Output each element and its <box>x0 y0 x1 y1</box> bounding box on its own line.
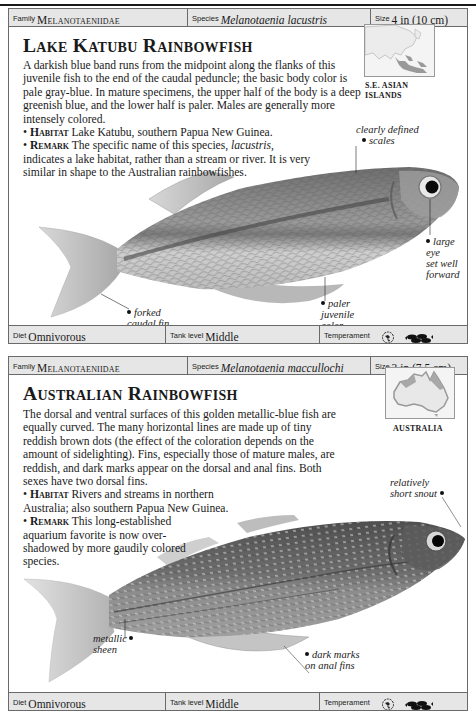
diet-label: Diet <box>13 331 26 340</box>
annotation-dark-marks-anal-fins: dark marks on anal fins <box>305 649 360 671</box>
tank-level-value: Middle <box>205 698 238 710</box>
pointer-dot-icon <box>129 636 133 640</box>
annotation-line: scales <box>356 135 419 146</box>
tank-level-value: Middle <box>205 331 238 343</box>
description-text: The dorsal and ventral surfaces of this … <box>23 408 341 488</box>
remark-text-italic: lacustris <box>231 139 271 152</box>
annotation-text: metallic <box>93 633 127 644</box>
annotation-line: short snout <box>390 488 447 499</box>
habitat-label: Habitat <box>30 488 69 501</box>
annotation-line: set well <box>426 258 467 269</box>
tank-level-label: Tank level <box>170 331 203 340</box>
tank-level-cell: Tank levelMiddle <box>165 693 319 710</box>
school-of-fish-icon <box>404 333 434 343</box>
annotation-line: juvenile <box>321 309 354 320</box>
tank-level-label: Tank level <box>170 698 203 707</box>
description-text: A darkish blue band runs from the midpoi… <box>23 59 363 126</box>
species-title: Australian Rainbowfish <box>23 383 238 405</box>
annotation-line: relatively <box>390 477 447 488</box>
habitat-text: Lake Katubu, southern Papua New Guinea. <box>71 126 272 139</box>
annotation-text: short snout <box>390 488 437 499</box>
annotation-text: scales <box>369 135 395 146</box>
pointer-dot-icon <box>426 239 430 243</box>
species-card-lake-katubu: FamilyMelanotaeniidae SpeciesMelanotaeni… <box>8 8 468 344</box>
school-of-fish-icon <box>404 700 434 710</box>
remark-text-pre: The specific name of this species, <box>72 139 231 152</box>
annotation-line: clearly defined <box>356 124 419 135</box>
temperament-label: Temperament <box>324 698 370 707</box>
map-label: AUSTRALIA <box>393 424 443 434</box>
annotation-line: large eye <box>426 236 467 258</box>
community-fish-icon <box>381 331 395 343</box>
pointer-dot-icon <box>305 652 309 656</box>
diet-cell: DietOmnivorous <box>9 693 165 710</box>
annotation-large-eye: large eye set well forward <box>426 236 467 280</box>
annotation-text: large eye <box>426 236 455 258</box>
annotation-text: paler <box>328 298 350 309</box>
annotation-clearly-defined-scales: clearly defined scales <box>356 124 419 146</box>
habitat-label: Habitat <box>30 126 69 139</box>
annotation-line: on anal fins <box>305 660 360 671</box>
remark-line: • Remark This long-established aquarium … <box>23 515 201 569</box>
distribution-map-se-asia <box>364 24 435 77</box>
species-title: Lake Katubu Rainbowfish <box>23 35 253 57</box>
diet-value: Omnivorous <box>28 698 86 710</box>
map-australia-icon <box>386 368 454 418</box>
annotation-line: metallic <box>93 633 136 644</box>
pointer-dot-icon <box>127 310 131 314</box>
diet-value: Omnivorous <box>28 331 86 343</box>
annotation-line: dark marks <box>305 649 360 660</box>
annotation-line: paler <box>321 298 354 309</box>
annotation-relatively-short-snout: relatively short snout <box>390 477 447 499</box>
annotation-line: forward <box>426 269 467 280</box>
remark-label: Remark <box>30 139 69 152</box>
temperament-cell: Temperament <box>319 693 467 710</box>
species-description: A darkish blue band runs from the midpoi… <box>23 59 363 180</box>
annotation-line: sheen <box>93 644 136 655</box>
distribution-map-australia <box>385 367 455 419</box>
remark-label: Remark <box>30 515 69 528</box>
pointer-dot-icon <box>321 301 325 305</box>
map-label-line-2: ISLANDS <box>365 91 408 101</box>
annotation-text: forked <box>134 307 161 318</box>
card-footer: DietOmnivorous Tank levelMiddle Temperam… <box>9 692 467 710</box>
annotation-metallic-sheen: metallic sheen <box>93 633 136 655</box>
species-card-australian: FamilyMelanotaeniidae SpeciesMelanotaeni… <box>8 356 468 711</box>
pointer-dot-icon <box>440 491 444 495</box>
map-label: S.E. ASIAN ISLANDS <box>365 81 408 101</box>
habitat-line: • Habitat Rivers and streams in northern… <box>23 488 241 515</box>
diet-label: Diet <box>13 698 26 707</box>
top-rule <box>0 4 476 6</box>
map-label-line-1: S.E. ASIAN <box>365 81 408 91</box>
habitat-line: • Habitat Lake Katubu, southern Papua Ne… <box>23 126 363 139</box>
temperament-cell: Temperament <box>319 326 467 343</box>
community-fish-icon <box>381 698 395 710</box>
map-label-line-1: AUSTRALIA <box>393 424 443 434</box>
annotation-line: forked <box>127 307 169 318</box>
pointer-dot-icon <box>362 138 366 142</box>
remark-line: • Remark The specific name of this speci… <box>23 139 315 179</box>
annotation-text: dark marks <box>312 649 360 660</box>
species-description: The dorsal and ventral surfaces of this … <box>23 408 341 569</box>
temperament-label: Temperament <box>324 331 370 340</box>
diet-cell: DietOmnivorous <box>9 326 165 343</box>
map-se-asia-icon <box>365 25 434 76</box>
card-footer: DietOmnivorous Tank levelMiddle Temperam… <box>9 325 467 343</box>
tank-level-cell: Tank levelMiddle <box>165 326 319 343</box>
